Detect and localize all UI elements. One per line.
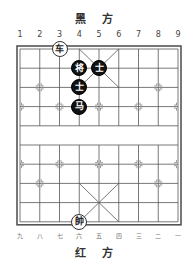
column-label-bottom: 六 <box>72 231 86 240</box>
red-piece[interactable]: 车 <box>52 41 68 57</box>
column-label-bottom: 五 <box>92 231 106 240</box>
column-label-bottom: 三 <box>132 231 146 240</box>
red-piece[interactable]: 帥 <box>71 214 87 230</box>
red-side-title: 红 方 <box>0 244 194 260</box>
column-label-bottom: 四 <box>112 231 126 240</box>
black-piece[interactable]: 马 <box>71 99 87 115</box>
column-label-bottom: 八 <box>33 231 47 240</box>
column-label-bottom: 九 <box>13 231 27 240</box>
column-label-bottom: 二 <box>151 231 165 240</box>
column-label-bottom: 七 <box>53 231 67 240</box>
column-label-bottom: 一 <box>171 231 185 240</box>
